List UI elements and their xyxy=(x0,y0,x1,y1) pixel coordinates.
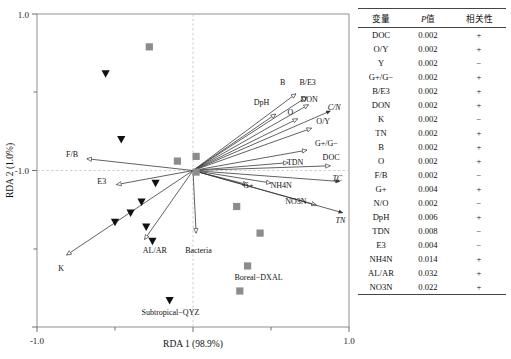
cell-pvalue: 0.002 xyxy=(404,168,452,182)
vector-label: NO3N xyxy=(285,197,307,206)
cell-variable: DpH xyxy=(358,210,404,224)
table-row: E30.004− xyxy=(358,238,506,252)
cell-variable: O/Y xyxy=(358,42,404,56)
figure-root: 1.0 -1.0 -1.0 1.0 RDA 1 (98.9%) RDA 2 (1… xyxy=(0,0,511,359)
header-pvalue: P值 xyxy=(404,9,452,28)
cell-variable: Y xyxy=(358,56,404,70)
vector-label: G+/G− xyxy=(315,139,338,148)
cell-correlation: + xyxy=(452,98,506,112)
vector-label: O xyxy=(288,108,294,117)
table-row: DON0.002+ xyxy=(358,98,506,112)
table-body: DOC0.002+O/Y0.002+Y0.002−G+/G−0.002+B/E3… xyxy=(358,28,506,295)
rda-ordination-plot: 1.0 -1.0 -1.0 1.0 RDA 1 (98.9%) RDA 2 (1… xyxy=(0,0,355,359)
cell-variable: G+ xyxy=(358,182,404,196)
cell-pvalue: 0.002 xyxy=(404,56,452,70)
table-header-row: 变量 P值 相关性 xyxy=(358,9,506,28)
site-label: Subtropical−QYZ xyxy=(141,308,199,317)
cell-variable: G+/G− xyxy=(358,70,404,84)
cell-variable: N/O xyxy=(358,196,404,210)
cell-correlation: + xyxy=(452,84,506,98)
cell-pvalue: 0.032 xyxy=(404,266,452,280)
cell-correlation: + xyxy=(452,210,506,224)
table-row: NO3N0.022+ xyxy=(358,280,506,295)
vector-label: C/N xyxy=(328,103,342,112)
table-row: K0.002− xyxy=(358,112,506,126)
site-label: Boreal−DXAL xyxy=(234,273,282,282)
cell-pvalue: 0.002 xyxy=(404,196,452,210)
cell-correlation: + xyxy=(452,28,506,43)
table-row: G+/G−0.002+ xyxy=(358,70,506,84)
significance-table-panel: 变量 P值 相关性 DOC0.002+O/Y0.002+Y0.002−G+/G−… xyxy=(358,8,508,338)
vector-label: DOC xyxy=(323,153,340,162)
xtick-left: -1.0 xyxy=(30,336,45,346)
table-row: DOC0.002+ xyxy=(358,28,506,43)
cell-pvalue: 0.002 xyxy=(404,84,452,98)
table-row: B/E30.002+ xyxy=(358,84,506,98)
cell-pvalue: 0.002 xyxy=(404,42,452,56)
cell-correlation: + xyxy=(452,252,506,266)
ytick-top: 1.0 xyxy=(18,10,30,20)
cell-pvalue: 0.002 xyxy=(404,70,452,84)
vector-label: TDN xyxy=(287,158,304,167)
table-row: O/Y0.002+ xyxy=(358,42,506,56)
cell-correlation: + xyxy=(452,126,506,140)
table-row: G+0.004+ xyxy=(358,182,506,196)
sample-marker-square xyxy=(233,203,240,210)
cell-pvalue: 0.006 xyxy=(404,210,452,224)
table-row: TDN0.008− xyxy=(358,224,506,238)
cell-pvalue: 0.002 xyxy=(404,126,452,140)
header-correlation: 相关性 xyxy=(452,9,506,28)
cell-correlation: + xyxy=(452,154,506,168)
table-row: DpH0.006+ xyxy=(358,210,506,224)
cell-variable: DON xyxy=(358,98,404,112)
cell-variable: B/E3 xyxy=(358,84,404,98)
rda-plot-svg: 1.0 -1.0 -1.0 1.0 RDA 1 (98.9%) RDA 2 (1… xyxy=(0,0,355,359)
vector-label: NH4N xyxy=(270,181,292,190)
sample-marker-square xyxy=(193,153,200,160)
cell-variable: NH4N xyxy=(358,252,404,266)
vector-label: K xyxy=(58,264,64,273)
table-row: NH4N0.014+ xyxy=(358,252,506,266)
cell-pvalue: 0.002 xyxy=(404,154,452,168)
vector-label: Bacteria xyxy=(185,246,212,255)
sample-marker-square xyxy=(193,168,200,175)
significance-table: 变量 P值 相关性 DOC0.002+O/Y0.002+Y0.002−G+/G−… xyxy=(358,8,506,295)
cell-correlation: − xyxy=(452,56,506,70)
sample-marker-square xyxy=(236,287,243,294)
cell-pvalue: 0.014 xyxy=(404,252,452,266)
cell-pvalue: 0.002 xyxy=(404,28,452,43)
table-row: Y0.002− xyxy=(358,56,506,70)
vector-label: G+ xyxy=(243,181,254,190)
cell-variable: O xyxy=(358,154,404,168)
sample-marker-square xyxy=(146,43,153,50)
cell-correlation: + xyxy=(452,70,506,84)
vector-label: O/Y xyxy=(316,117,330,126)
header-pvalue-suffix: 值 xyxy=(426,14,435,24)
cell-pvalue: 0.004 xyxy=(404,182,452,196)
vector-label: TC xyxy=(332,174,342,183)
vector-label: DON xyxy=(301,95,319,104)
y-axis-title: RDA 2 (1.0%) xyxy=(5,143,16,198)
cell-variable: TDN xyxy=(358,224,404,238)
table-row: AL/AR0.032+ xyxy=(358,266,506,280)
cell-correlation: + xyxy=(452,182,506,196)
cell-correlation: + xyxy=(452,280,506,295)
cell-correlation: − xyxy=(452,168,506,182)
vector-label: TN xyxy=(336,216,346,225)
table-row: O0.002+ xyxy=(358,154,506,168)
cell-correlation: + xyxy=(452,266,506,280)
table-row: B0.002+ xyxy=(358,140,506,154)
cell-correlation: − xyxy=(452,224,506,238)
vector-label: E3 xyxy=(97,177,106,186)
ytick-bottom: -1.0 xyxy=(15,166,30,176)
xtick-right: 1.0 xyxy=(343,336,355,346)
vector-label: B xyxy=(280,78,285,87)
sample-marker-square xyxy=(244,262,251,269)
cell-variable: K xyxy=(358,112,404,126)
vector-label: AL/AR xyxy=(143,246,168,255)
sample-marker-square xyxy=(256,230,263,237)
cell-variable: NO3N xyxy=(358,280,404,295)
vector-label: B/E3 xyxy=(299,78,315,87)
cell-variable: B xyxy=(358,140,404,154)
cell-correlation: − xyxy=(452,196,506,210)
